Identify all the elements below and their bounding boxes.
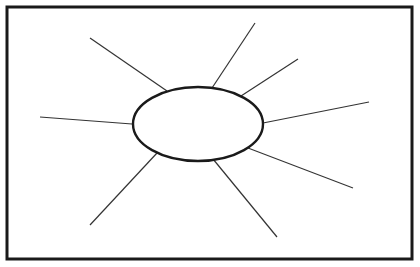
spider-map-diagram: [0, 0, 420, 267]
spoke-line-lower-right: [248, 148, 353, 188]
spoke-line-upper-right: [241, 59, 298, 96]
spoke-line-right: [263, 102, 369, 123]
spoke-line-top: [212, 23, 255, 88]
center-oval: [133, 87, 263, 161]
spoke-line-lower-left: [90, 153, 157, 225]
spoke-line-upper-left: [90, 38, 167, 91]
spoke-line-bottom: [213, 159, 277, 237]
spoke-line-left: [40, 117, 132, 124]
